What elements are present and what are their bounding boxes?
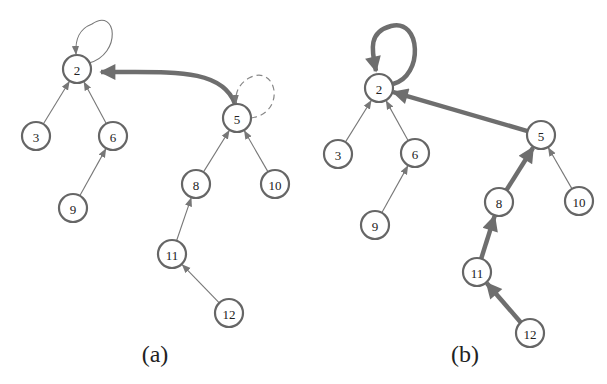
graph-node-8: 8: [182, 170, 210, 198]
edge-5-to-2: [101, 72, 235, 104]
graph-node-3: 3: [324, 140, 352, 168]
panel-caption-a: (a): [142, 341, 169, 367]
node-label: 3: [335, 148, 342, 163]
edge-10-to-5: [548, 148, 572, 189]
edge-8-to-5: [506, 148, 533, 190]
edge-9-to-6: [80, 149, 106, 196]
graph-node-10: 10: [565, 187, 593, 215]
node-label: 11: [471, 266, 484, 281]
node-label: 2: [376, 82, 383, 97]
edge-6-to-2: [84, 82, 106, 123]
node-label: 10: [269, 178, 282, 193]
panel-a: 236958101112(a): [22, 20, 289, 367]
edge-12-to-11: [182, 265, 219, 303]
graph-node-6: 6: [401, 139, 429, 167]
edge-9-to-6: [382, 166, 408, 213]
edge-12-to-11: [487, 283, 521, 322]
edge-3-to-2: [345, 101, 371, 142]
edge-6-to-2: [386, 101, 408, 141]
edge-10-to-5: [244, 131, 268, 172]
graph-node-5: 5: [527, 121, 555, 149]
nodes-layer: 236958101112: [22, 55, 289, 327]
union-find-diagram: 236958101112(a) 236958101112(b): [0, 0, 607, 384]
nodes-layer: 236958101112: [324, 74, 593, 347]
graph-node-9: 9: [59, 194, 87, 222]
edge-11-to-8: [177, 198, 192, 241]
node-label: 3: [33, 130, 40, 145]
graph-node-2: 2: [63, 55, 91, 83]
edge-3-to-2: [43, 82, 69, 124]
graph-node-6: 6: [99, 122, 127, 150]
panel-b: 236958101112(b): [324, 25, 593, 367]
node-label: 2: [74, 63, 81, 78]
node-label: 6: [110, 130, 117, 145]
graph-node-3: 3: [22, 122, 50, 150]
graph-node-11: 11: [158, 240, 186, 268]
node-label: 12: [524, 327, 537, 342]
node-label: 12: [223, 307, 236, 322]
graph-node-9: 9: [361, 211, 389, 239]
graph-node-12: 12: [215, 299, 243, 327]
graph-node-2: 2: [365, 74, 393, 102]
graph-node-8: 8: [485, 188, 513, 216]
edge-8-to-5: [203, 131, 229, 172]
graph-node-10: 10: [261, 170, 289, 198]
node-label: 5: [538, 129, 545, 144]
node-label: 5: [234, 112, 241, 127]
edge-11-to-8: [481, 216, 494, 258]
node-label: 8: [496, 196, 503, 211]
node-label: 9: [372, 219, 379, 234]
node-label: 10: [573, 195, 586, 210]
node-label: 9: [70, 202, 77, 217]
node-label: 6: [412, 147, 419, 162]
node-label: 11: [166, 248, 179, 263]
panel-caption-b: (b): [451, 341, 479, 367]
graph-node-11: 11: [463, 258, 491, 286]
edges-layer: [345, 25, 572, 322]
graph-node-5: 5: [223, 104, 251, 132]
graph-node-12: 12: [516, 319, 544, 347]
node-label: 8: [193, 178, 200, 193]
edge-5-to-2: [393, 92, 527, 131]
